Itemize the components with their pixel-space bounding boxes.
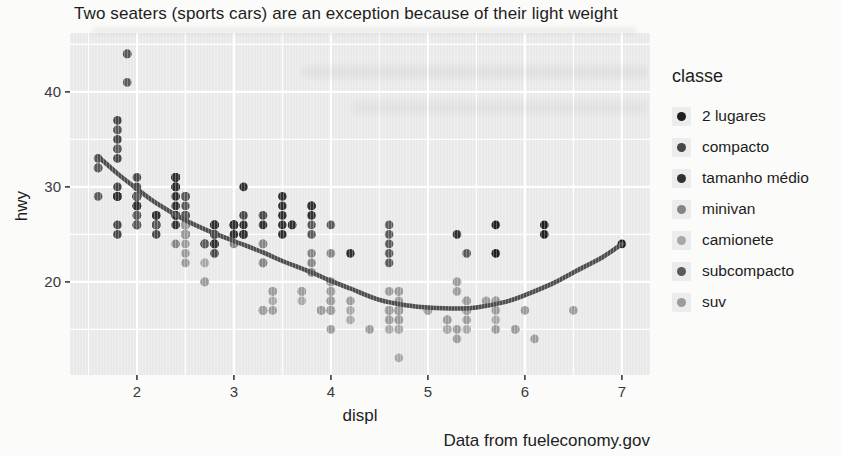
data-point xyxy=(453,325,462,334)
data-point xyxy=(492,221,501,230)
data-point xyxy=(385,221,394,230)
legend-item-label: minivan xyxy=(702,200,755,218)
data-point xyxy=(346,297,355,306)
data-point xyxy=(298,297,307,306)
data-point xyxy=(230,221,239,230)
legend-item-label: camionete xyxy=(702,231,774,249)
data-point xyxy=(395,325,404,334)
data-point xyxy=(395,306,404,315)
data-point xyxy=(171,221,180,230)
data-point xyxy=(278,221,287,230)
legend-item-2seater: 2 lugares xyxy=(672,105,837,127)
data-point xyxy=(521,306,530,315)
data-point xyxy=(133,202,142,211)
data-point xyxy=(385,249,394,258)
data-point xyxy=(123,78,132,87)
data-point xyxy=(171,192,180,201)
data-point xyxy=(171,183,180,192)
legend-key xyxy=(672,107,691,126)
data-point xyxy=(230,230,239,239)
legend-key xyxy=(672,231,691,250)
data-point xyxy=(462,249,471,258)
data-point xyxy=(113,221,122,230)
data-point xyxy=(113,116,122,125)
y-tick-label: 30 xyxy=(44,178,61,195)
y-tick-label: 20 xyxy=(44,273,61,290)
point-dot-icon xyxy=(677,236,686,245)
legend-item-midsize: tamanho médio xyxy=(672,167,837,189)
point-dot-icon xyxy=(677,267,686,276)
data-point xyxy=(181,202,190,211)
data-point xyxy=(511,325,520,334)
data-point xyxy=(278,192,287,201)
data-point xyxy=(569,306,578,315)
x-tick-label: 2 xyxy=(133,383,141,400)
data-point xyxy=(385,287,394,296)
data-point xyxy=(385,240,394,249)
data-point xyxy=(171,173,180,182)
data-point xyxy=(540,230,549,239)
data-point xyxy=(462,316,471,325)
data-point xyxy=(133,221,142,230)
point-dot-icon xyxy=(677,112,686,121)
data-point xyxy=(113,145,122,154)
point-dot-icon xyxy=(677,143,686,152)
data-point xyxy=(113,183,122,192)
data-point xyxy=(385,259,394,268)
data-point xyxy=(278,211,287,220)
data-point xyxy=(259,240,268,249)
data-point xyxy=(181,192,190,201)
x-tick-label: 3 xyxy=(230,383,238,400)
data-point xyxy=(113,192,122,201)
x-tick-label: 5 xyxy=(424,383,432,400)
data-point xyxy=(443,316,452,325)
data-point xyxy=(278,230,287,239)
data-point xyxy=(317,306,326,315)
data-point xyxy=(201,240,210,249)
data-point xyxy=(492,306,501,315)
data-point xyxy=(239,211,248,220)
x-tick-label: 4 xyxy=(327,383,335,400)
legend-item-label: subcompacto xyxy=(702,262,794,280)
data-point xyxy=(492,316,501,325)
data-point xyxy=(307,230,316,239)
legend: classe 2 lugares compacto tamanho médio … xyxy=(672,66,837,322)
x-tick-label: 7 xyxy=(618,383,626,400)
legend-item-subcompact: subcompacto xyxy=(672,260,837,282)
data-point xyxy=(395,316,404,325)
y-axis-label: hwy xyxy=(12,176,32,236)
legend-item-minivan: minivan xyxy=(672,198,837,220)
data-point xyxy=(171,240,180,249)
data-point xyxy=(181,240,190,249)
point-dot-icon xyxy=(677,205,686,214)
data-point xyxy=(307,249,316,258)
point-dot-icon xyxy=(677,174,686,183)
data-point xyxy=(94,192,103,201)
data-point xyxy=(530,335,539,344)
legend-item-label: 2 lugares xyxy=(702,107,766,125)
data-point xyxy=(201,259,210,268)
data-point xyxy=(327,221,336,230)
data-point xyxy=(268,306,277,315)
data-point xyxy=(259,306,268,315)
data-point xyxy=(453,335,462,344)
data-point xyxy=(540,221,549,230)
legend-item-pickup: camionete xyxy=(672,229,837,251)
data-point xyxy=(152,221,161,230)
data-point xyxy=(239,230,248,239)
data-point xyxy=(307,202,316,211)
data-point xyxy=(268,297,277,306)
data-point xyxy=(327,306,336,315)
data-point xyxy=(307,221,316,230)
data-point xyxy=(113,154,122,163)
data-point xyxy=(210,240,219,249)
data-point xyxy=(462,325,471,334)
data-point xyxy=(346,316,355,325)
data-point xyxy=(259,221,268,230)
legend-key xyxy=(672,293,691,312)
data-point xyxy=(259,211,268,220)
x-axis-label: displ xyxy=(70,406,650,426)
data-point xyxy=(268,287,277,296)
data-point xyxy=(259,259,268,268)
data-point xyxy=(492,249,501,258)
